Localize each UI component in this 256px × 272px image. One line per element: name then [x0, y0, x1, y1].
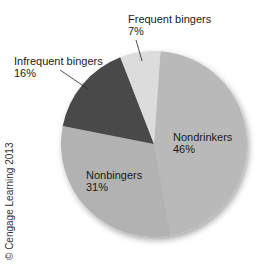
- copyright-credit: © Cengage Learning 2013: [4, 143, 15, 260]
- label-pct: 31%: [86, 181, 142, 193]
- label-name: Nonbingers: [86, 169, 142, 181]
- label-pct: 7%: [128, 25, 211, 37]
- label-pct: 46%: [173, 143, 232, 155]
- label-name: Frequent bingers: [128, 13, 211, 25]
- label-nonbingers: Nonbingers 31%: [86, 169, 142, 193]
- label-name: Nondrinkers: [173, 131, 232, 143]
- label-frequent-bingers: Frequent bingers 7%: [128, 13, 211, 37]
- label-name: Infrequent bingers: [14, 55, 103, 67]
- label-infrequent-bingers: Infrequent bingers 16%: [14, 55, 103, 79]
- label-nondrinkers: Nondrinkers 46%: [173, 131, 232, 155]
- label-pct: 16%: [14, 67, 103, 79]
